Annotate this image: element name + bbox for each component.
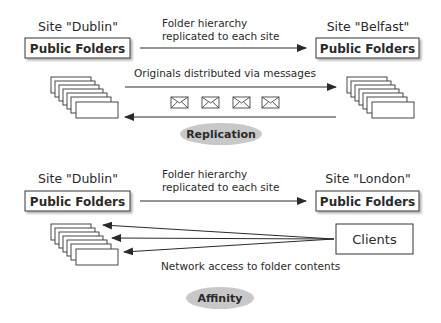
hierarchy-note-line2: replicated to each site — [162, 30, 279, 42]
site-title-dublin: Site "Dublin" — [38, 171, 118, 186]
hierarchy-note-line1: Folder hierarchy — [162, 168, 247, 180]
replication-section: Site "Dublin" Public Folders Site "Belfa… — [25, 17, 419, 145]
diagram-canvas: Site "Dublin" Public Folders Site "Belfa… — [0, 0, 441, 323]
public-folders-label: Public Folders — [320, 195, 415, 209]
public-folders-box-belfast[interactable]: Public Folders — [316, 38, 419, 58]
envelope-icon — [233, 97, 250, 108]
public-folders-box-london[interactable]: Public Folders — [316, 191, 419, 211]
network-note: Network access to folder contents — [161, 260, 340, 272]
network-access-arrow — [103, 225, 334, 239]
clients-label: Clients — [352, 232, 397, 247]
clients-box[interactable]: Clients — [336, 224, 413, 254]
public-folders-box-dublin[interactable]: Public Folders — [25, 38, 130, 58]
network-access-arrow — [124, 239, 334, 252]
svg-text:Replication: Replication — [186, 128, 256, 141]
document-stack-icon — [347, 77, 414, 118]
affinity-section: Site "Dublin" Public Folders Site "Londo… — [25, 168, 419, 309]
public-folders-label: Public Folders — [30, 195, 125, 209]
site-title-belfast: Site "Belfast" — [327, 19, 410, 34]
messages-note: Originals distributed via messages — [134, 67, 316, 79]
network-access-arrow — [112, 238, 334, 239]
affinity-badge: Affinity — [186, 287, 254, 309]
public-folders-box-dublin[interactable]: Public Folders — [25, 191, 130, 211]
replication-badge: Replication — [180, 123, 262, 145]
svg-text:Affinity: Affinity — [198, 292, 243, 305]
document-stack-icon — [51, 77, 118, 118]
document-stack-icon — [51, 224, 118, 265]
hierarchy-note-line1: Folder hierarchy — [162, 17, 247, 29]
envelope-icon — [171, 97, 188, 108]
envelope-icon — [262, 97, 279, 108]
hierarchy-note-line2: replicated to each site — [162, 181, 279, 193]
envelope-icon — [202, 97, 219, 108]
public-folders-label: Public Folders — [30, 42, 125, 56]
site-title-dublin: Site "Dublin" — [38, 19, 118, 34]
site-title-london: Site "London" — [325, 171, 410, 186]
public-folders-label: Public Folders — [320, 42, 415, 56]
